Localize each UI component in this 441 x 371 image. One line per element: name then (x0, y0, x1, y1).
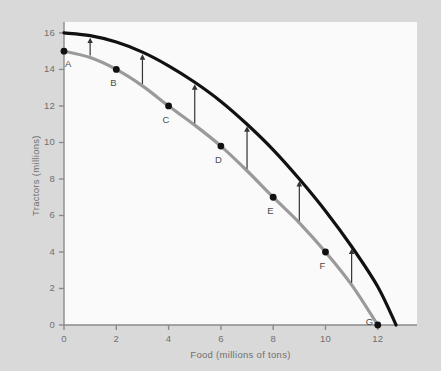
x-axis-title: Food (millions of tons) (24, 349, 441, 360)
x-tick-label: 8 (253, 333, 293, 344)
point-label-E: E (267, 205, 273, 216)
data-point-D (217, 143, 224, 150)
point-label-A: A (65, 58, 71, 69)
x-tick-label: 12 (358, 333, 398, 344)
y-tick-label: 12 (0, 100, 55, 111)
x-tick-label: 0 (44, 333, 84, 344)
y-tick-label: 10 (0, 136, 55, 147)
y-tick-label: 0 (0, 319, 55, 330)
x-tick-label: 4 (149, 333, 189, 344)
data-point-E (270, 194, 277, 201)
curve-inner-frontier (64, 51, 378, 325)
data-point-B (113, 66, 120, 73)
x-tick-label: 2 (96, 333, 136, 344)
data-point-G (374, 322, 381, 329)
plot-canvas (0, 0, 441, 371)
data-point-C (165, 103, 172, 110)
x-tick-label: 6 (201, 333, 241, 344)
y-tick-label: 6 (0, 209, 55, 220)
data-point-A (61, 48, 68, 55)
x-tick-label: 10 (305, 333, 345, 344)
point-label-F: F (319, 260, 325, 271)
point-label-G: G (366, 316, 373, 327)
y-axis-title: Tractors (millions) (30, 135, 41, 216)
point-label-D: D (215, 154, 222, 165)
y-tick-label: 14 (0, 63, 55, 74)
data-point-F (322, 249, 329, 256)
point-label-B: B (110, 77, 116, 88)
y-tick-label: 2 (0, 282, 55, 293)
point-label-C: C (163, 114, 170, 125)
y-tick-label: 16 (0, 27, 55, 38)
y-tick-label: 8 (0, 173, 55, 184)
chart-figure: 0246810121416024681012Tractors (millions… (0, 0, 441, 371)
y-tick-label: 4 (0, 246, 55, 257)
